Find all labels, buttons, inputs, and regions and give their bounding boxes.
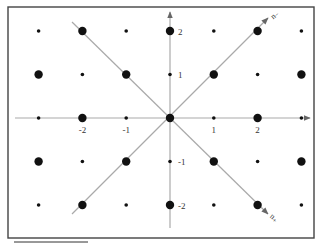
y-tick-label: -2 — [178, 201, 186, 211]
lattice-point — [78, 201, 86, 209]
lattice-point — [81, 160, 85, 164]
lattice-point — [256, 160, 260, 164]
axes: n₋n₊ — [15, 9, 310, 228]
lattice-point — [300, 116, 304, 120]
lattice-point — [34, 70, 42, 78]
lattice-point — [78, 114, 86, 122]
diagonal-label-n-minus: n₋ — [269, 9, 281, 21]
lattice-point — [210, 70, 218, 78]
lattice-point — [212, 116, 216, 120]
lattice-point — [256, 73, 260, 77]
lattice-point — [166, 114, 174, 122]
lattice-point — [81, 73, 85, 77]
lattice-point — [124, 203, 128, 207]
lattice-point — [210, 157, 218, 165]
lattice-point — [124, 29, 128, 33]
lattice-point — [253, 114, 261, 122]
lattice-point — [253, 27, 261, 35]
frame — [8, 7, 314, 238]
x-tick-label: 2 — [255, 125, 260, 135]
lattice-point — [253, 201, 261, 209]
lattice-diagram: n₋n₊ -2-11221-1-2 — [0, 0, 323, 244]
lattice-point — [297, 70, 305, 78]
lattice-point — [37, 29, 41, 33]
lattice-point — [166, 27, 174, 35]
lattice-point — [297, 157, 305, 165]
lattice-point — [300, 203, 304, 207]
lattice-point — [37, 116, 41, 120]
lattice-point — [37, 203, 41, 207]
x-tick-label: 1 — [212, 125, 217, 135]
x-tick-label: -1 — [122, 125, 130, 135]
lattice-point — [78, 27, 86, 35]
y-tick-label: 2 — [178, 27, 183, 37]
lattice-point — [300, 29, 304, 33]
y-tick-label: 1 — [178, 70, 183, 80]
y-tick-label: -1 — [178, 157, 186, 167]
lattice-point — [124, 116, 128, 120]
lattice-point — [122, 157, 130, 165]
lattice-point — [166, 201, 174, 209]
lattice-point — [168, 160, 172, 164]
lattice-point — [34, 157, 42, 165]
lattice-point — [212, 29, 216, 33]
lattice-point — [168, 73, 172, 77]
lattice-point — [122, 70, 130, 78]
x-tick-label: -2 — [79, 125, 87, 135]
lattice-point — [212, 203, 216, 207]
diagonal-label-n-plus: n₊ — [268, 212, 280, 224]
